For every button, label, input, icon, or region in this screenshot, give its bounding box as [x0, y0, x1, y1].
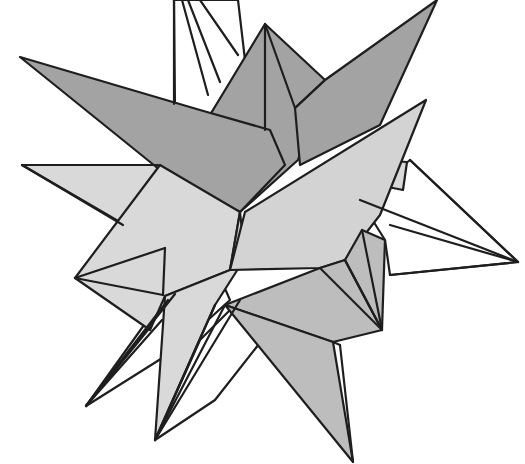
stellated-polyhedron-figure	[0, 0, 525, 464]
